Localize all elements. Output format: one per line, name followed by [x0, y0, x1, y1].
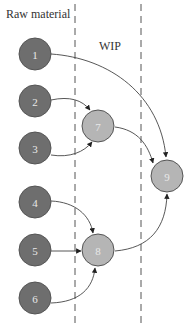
- edge-7-to-9: [115, 127, 153, 163]
- node-9-label: 9: [164, 171, 170, 183]
- edge-4-to-8: [51, 201, 93, 233]
- node-5-label: 5: [32, 245, 38, 257]
- node-4-label: 4: [32, 197, 38, 209]
- node-8: 8: [82, 234, 114, 266]
- node-5: 5: [19, 234, 51, 266]
- edge-2-to-7: [51, 98, 90, 110]
- node-4: 4: [19, 186, 51, 218]
- node-3: 3: [19, 132, 51, 164]
- zone-label-raw-material: Raw material: [6, 7, 71, 21]
- node-7: 7: [82, 110, 114, 142]
- node-1-label: 1: [32, 49, 38, 61]
- node-3-label: 3: [32, 143, 38, 155]
- edge-6-to-8: [51, 268, 95, 303]
- edge-1-to-9: [51, 54, 166, 157]
- node-8-label: 8: [95, 245, 101, 257]
- node-2-label: 2: [32, 96, 38, 108]
- assembly-flow-diagram: Raw material WIP 1 2 3 4 5 6 7: [0, 0, 193, 324]
- node-6-label: 6: [32, 293, 38, 305]
- edge-3-to-7: [51, 142, 92, 156]
- node-7-label: 7: [95, 121, 101, 133]
- node-6: 6: [19, 282, 51, 314]
- node-9: 9: [151, 160, 183, 192]
- node-1: 1: [19, 38, 51, 70]
- zone-label-wip: WIP: [99, 39, 121, 53]
- node-2: 2: [19, 85, 51, 117]
